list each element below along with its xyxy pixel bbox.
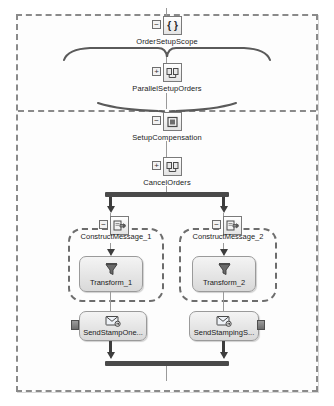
parallel-actions-icon — [163, 157, 182, 176]
orchestration-canvas: − { } OrderSetupScope + — [0, 0, 334, 406]
split-arrow-left — [107, 206, 115, 213]
port-connector-right[interactable] — [257, 320, 265, 330]
send-envelope-icon — [216, 315, 232, 327]
svg-text:{ }: { } — [167, 20, 178, 31]
group-label-construct-message-2: ConstructMessage_2 — [179, 232, 277, 241]
collapse-toggle-setup-compensation[interactable]: − — [152, 116, 161, 125]
arrow-to-transform-1 — [107, 249, 115, 256]
node-label-parallel-setup-orders: ParallelSetupOrders — [132, 84, 201, 93]
node-label-cancel-orders: CancelOrders — [143, 178, 190, 187]
connector-join-exit — [166, 366, 167, 381]
action-transform-1[interactable]: Transform_1 — [79, 256, 143, 292]
expand-toggle-parallel-setup-orders[interactable]: + — [152, 67, 161, 76]
port-connector-left[interactable] — [71, 320, 79, 330]
action-send-stamp-one[interactable]: SendStampOne... — [79, 311, 147, 341]
node-icon-row: + — [152, 63, 182, 82]
join-arrow-right — [220, 352, 228, 359]
scope-brace-upper — [62, 44, 272, 62]
collapse-toggle-construct-message-1[interactable]: − — [99, 220, 108, 229]
action-label-send-stamping-s: SendStampingS... — [194, 328, 254, 337]
parallel-actions-icon — [163, 63, 182, 82]
action-send-stamping-s[interactable]: SendStampingS... — [189, 311, 259, 341]
action-label-send-stamp-one: SendStampOne... — [83, 328, 143, 337]
expand-toggle-cancel-orders[interactable]: + — [152, 161, 161, 170]
scope-braces-icon: { } — [163, 16, 182, 35]
send-envelope-icon — [105, 315, 121, 327]
collapse-toggle-order-setup-scope[interactable]: − — [152, 20, 161, 29]
transform-funnel-icon — [217, 262, 232, 277]
node-icon-row: − { } — [152, 16, 182, 35]
connector-to-cancel-orders — [166, 141, 167, 158]
split-arrow-right — [220, 206, 228, 213]
transform-funnel-icon — [104, 262, 119, 277]
collapse-toggle-construct-message-2[interactable]: − — [212, 220, 221, 229]
node-icon-row: + — [152, 157, 182, 176]
compensation-icon — [163, 112, 182, 131]
group-label-construct-message-1: ConstructMessage_1 — [68, 232, 164, 241]
node-order-setup-scope[interactable]: − { } OrderSetupScope — [107, 16, 227, 46]
action-label-transform-1: Transform_1 — [90, 278, 132, 287]
node-icon-row: − — [152, 112, 182, 131]
node-parallel-setup-orders[interactable]: + ParallelSetupOrders — [107, 63, 227, 93]
node-cancel-orders[interactable]: + CancelOrders — [107, 157, 227, 187]
parallel-join-bar — [105, 361, 229, 366]
parallel-split-bar — [105, 192, 229, 197]
node-setup-compensation[interactable]: − SetupCompensation — [107, 112, 227, 142]
arrow-to-transform-2 — [220, 249, 228, 256]
action-label-transform-2: Transform_2 — [203, 278, 245, 287]
action-transform-2[interactable]: Transform_2 — [192, 256, 256, 292]
join-arrow-left — [107, 352, 115, 359]
